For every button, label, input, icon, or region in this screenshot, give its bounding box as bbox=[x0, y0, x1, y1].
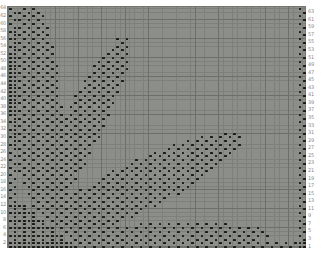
stitch-dot bbox=[51, 159, 54, 161]
stitch-dot bbox=[303, 133, 306, 135]
stitch-dot bbox=[93, 223, 96, 225]
stitch-dot bbox=[299, 38, 302, 40]
stitch-dot bbox=[51, 235, 54, 237]
stitch-dot bbox=[210, 242, 213, 244]
stitch-dot bbox=[37, 72, 40, 74]
stitch-dot bbox=[70, 235, 73, 237]
stitch-dot bbox=[107, 91, 110, 93]
stitch-dot bbox=[303, 19, 306, 21]
stitch-dot bbox=[93, 246, 96, 248]
stitch-dot bbox=[60, 242, 63, 244]
stitch-dot bbox=[23, 38, 26, 40]
stitch-dot bbox=[88, 114, 91, 116]
stitch-dot bbox=[56, 140, 59, 142]
stitch-dot bbox=[98, 242, 101, 244]
stitch-dot bbox=[60, 136, 63, 138]
row-number: 44 bbox=[0, 81, 6, 86]
stitch-dot bbox=[187, 178, 190, 180]
stitch-dot bbox=[14, 205, 17, 207]
stitch-dot bbox=[23, 242, 26, 244]
stitch-dot bbox=[37, 57, 40, 59]
stitch-dot bbox=[14, 38, 17, 40]
stitch-dot bbox=[98, 114, 101, 116]
stitch-dot bbox=[303, 223, 306, 225]
stitch-dot bbox=[42, 182, 45, 184]
stitch-dot bbox=[116, 46, 119, 48]
stitch-dot bbox=[32, 216, 35, 218]
stitch-dot bbox=[112, 87, 115, 89]
stitch-dot bbox=[149, 246, 152, 248]
row-number: 1 bbox=[308, 244, 320, 249]
stitch-dot bbox=[257, 242, 260, 244]
row-number: 33 bbox=[308, 123, 320, 128]
stitch-dot bbox=[70, 242, 73, 244]
stitch-dot bbox=[9, 246, 12, 248]
stitch-dot bbox=[32, 46, 35, 48]
stitch-dot bbox=[93, 140, 96, 142]
stitch-dot bbox=[14, 208, 17, 210]
stitch-dot bbox=[215, 246, 218, 248]
stitch-dot bbox=[299, 212, 302, 214]
stitch-dot bbox=[93, 87, 96, 89]
stitch-dot bbox=[173, 242, 176, 244]
stitch-dot bbox=[56, 178, 59, 180]
stitch-dot bbox=[74, 102, 77, 104]
stitch-dot bbox=[135, 189, 138, 191]
stitch-dot bbox=[102, 102, 105, 104]
stitch-dot bbox=[9, 99, 12, 101]
stitch-dot bbox=[238, 144, 241, 146]
stitch-dot bbox=[70, 121, 73, 123]
stitch-dot bbox=[247, 242, 250, 244]
stitch-dot bbox=[79, 212, 82, 214]
stitch-dot bbox=[145, 174, 148, 176]
stitch-dot bbox=[177, 193, 180, 195]
stitch-dot bbox=[18, 246, 21, 248]
stitch-dot bbox=[299, 84, 302, 86]
stitch-dot bbox=[219, 159, 222, 161]
stitch-dot bbox=[28, 193, 31, 195]
stitch-dot bbox=[303, 239, 306, 241]
stitch-dot bbox=[196, 163, 199, 165]
stitch-dot bbox=[18, 34, 21, 36]
stitch-dot bbox=[196, 231, 199, 233]
stitch-dot bbox=[84, 118, 87, 120]
stitch-dot bbox=[219, 136, 222, 138]
stitch-dot bbox=[112, 72, 115, 74]
stitch-dot bbox=[102, 201, 105, 203]
stitch-dot bbox=[196, 239, 199, 241]
stitch-dot bbox=[37, 133, 40, 135]
stitch-dot bbox=[14, 133, 17, 135]
stitch-dot bbox=[126, 53, 129, 55]
stitch-dot bbox=[32, 15, 35, 17]
stitch-dot bbox=[121, 80, 124, 82]
stitch-dot bbox=[42, 227, 45, 229]
stitch-dot bbox=[98, 121, 101, 123]
right-row-numbers: 6361595755535149474543413937353331292725… bbox=[308, 6, 320, 248]
stitch-dot bbox=[112, 239, 115, 241]
stitch-dot bbox=[177, 246, 180, 248]
row-number: 59 bbox=[308, 24, 320, 29]
stitch-dot bbox=[238, 136, 241, 138]
row-number: 9 bbox=[308, 213, 320, 218]
stitch-dot bbox=[42, 242, 45, 244]
stitch-dot bbox=[42, 68, 45, 70]
stitch-dot bbox=[102, 231, 105, 233]
stitch-dot bbox=[51, 84, 54, 86]
stitch-dot bbox=[303, 201, 306, 203]
stitch-dot bbox=[32, 235, 35, 237]
stitch-dot bbox=[145, 235, 148, 237]
stitch-dot bbox=[107, 235, 110, 237]
row-number: 23 bbox=[308, 160, 320, 165]
row-number: 57 bbox=[308, 32, 320, 37]
stitch-dot bbox=[191, 152, 194, 154]
stitch-dot bbox=[23, 61, 26, 63]
stitch-dot bbox=[84, 246, 87, 248]
stitch-dot bbox=[23, 239, 26, 241]
stitch-dot bbox=[14, 49, 17, 51]
stitch-dot bbox=[42, 53, 45, 55]
stitch-dot bbox=[201, 227, 204, 229]
stitch-dot bbox=[28, 95, 31, 97]
stitch-dot bbox=[210, 144, 213, 146]
stitch-dot bbox=[299, 68, 302, 70]
stitch-dot bbox=[70, 227, 73, 229]
